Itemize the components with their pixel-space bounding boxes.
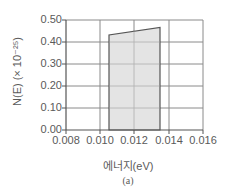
y-axis-label: N(E) (× 10⁻²⁵) [11,27,24,117]
y-tick-label: 0.30 [22,57,62,69]
figure-caption: (a) [98,175,158,186]
y-tick-label: 0.20 [22,79,62,91]
y-tick-label: 0.40 [22,35,62,47]
x-axis-label: 에너지(eV) [98,157,158,173]
y-tick-label: 0.10 [22,101,62,113]
x-tick-label: 0.016 [183,134,223,146]
y-tick-label: 0.50 [22,13,62,25]
x-tick-label: 0.012 [114,134,154,146]
data-region [109,28,160,131]
